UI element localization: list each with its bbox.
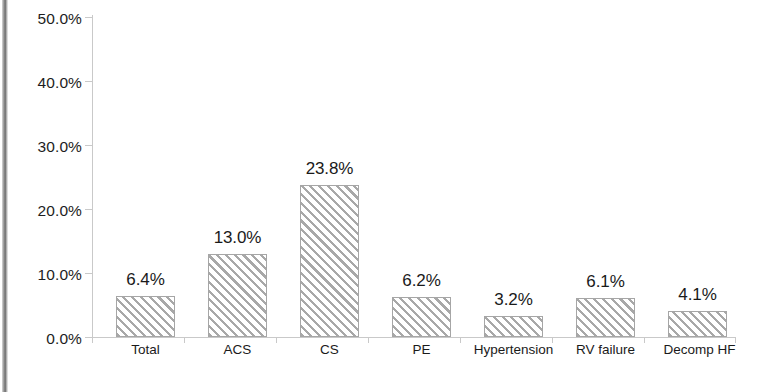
category-label-total: Total [100, 343, 191, 358]
y-axis-tick-20 [85, 209, 93, 210]
y-axis-label-20: 20.0% [0, 203, 82, 219]
y-axis-tick-30 [85, 145, 93, 146]
y-axis-tick-50 [85, 17, 93, 18]
x-axis-line [92, 337, 735, 338]
y-axis-tick-40 [85, 81, 93, 82]
bar-cs [300, 185, 359, 337]
y-axis-line [92, 15, 93, 338]
category-label-acs: ACS [192, 343, 283, 358]
value-label-cs: 23.8% [288, 160, 371, 177]
bar-total [116, 296, 175, 337]
bar-pe [392, 297, 451, 337]
y-axis-label-0: 0.0% [0, 331, 82, 347]
y-axis-label-30: 30.0% [0, 139, 82, 155]
category-label-cs: CS [284, 343, 375, 358]
value-label-pe: 6.2% [380, 272, 463, 289]
y-axis-tick-10 [85, 273, 93, 274]
bar-hypertension [484, 316, 543, 337]
bar-chart-figure: 50.0% 40.0% 30.0% 20.0% 10.0% 0.0% 6.4% … [0, 0, 774, 392]
y-axis-label-50: 50.0% [0, 11, 82, 27]
x-axis-tick-0 [92, 337, 93, 343]
bar-decomp-hf [668, 311, 727, 337]
bar-acs [208, 254, 267, 337]
value-label-acs: 13.0% [196, 229, 279, 246]
value-label-total: 6.4% [104, 271, 187, 288]
plot-area: 50.0% 40.0% 30.0% 20.0% 10.0% 0.0% 6.4% … [0, 0, 774, 392]
category-label-rv-failure: RV failure [560, 343, 651, 358]
category-label-hypertension: Hypertension [464, 343, 563, 358]
y-axis-label-10: 10.0% [0, 267, 82, 283]
bar-rv-failure [576, 298, 635, 337]
category-label-pe: PE [376, 343, 467, 358]
category-label-decomp-hf: Decomp HF [650, 343, 749, 358]
value-label-rv-failure: 6.1% [564, 273, 647, 290]
value-label-decomp-hf: 4.1% [656, 286, 739, 303]
value-label-hypertension: 3.2% [472, 291, 555, 308]
y-axis-label-40: 40.0% [0, 75, 82, 91]
